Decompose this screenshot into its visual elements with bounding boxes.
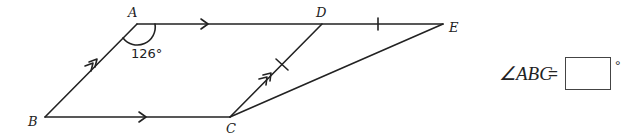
label-D: D — [315, 5, 327, 20]
degree-symbol: ° — [615, 58, 621, 74]
line-CE — [230, 24, 443, 117]
question-angle-ABC: ∠ABC — [499, 63, 552, 84]
line-CD — [230, 24, 322, 117]
label-E: E — [448, 20, 459, 35]
geometry-diagram: A B C D E 126° ∠ABC = — [0, 0, 644, 135]
angle-arc-A — [123, 24, 155, 45]
label-B: B — [27, 114, 38, 129]
equals-sign: = — [548, 64, 558, 83]
angle-label-126: 126° — [131, 46, 162, 61]
label-A: A — [127, 5, 137, 20]
double-arrow-AB-1 — [85, 63, 93, 71]
label-C: C — [226, 121, 236, 135]
answer-input-box[interactable] — [565, 57, 611, 90]
